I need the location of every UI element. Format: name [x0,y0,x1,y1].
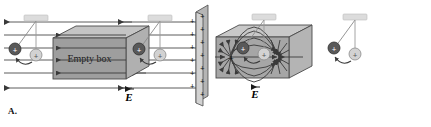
deflection-arc-arrow [335,57,351,63]
plate-charges-front: + + + + + + [190,17,195,91]
dipole-source-symbol: + [228,53,233,63]
svg-text:+: + [200,25,205,34]
svg-text:+: + [200,64,205,73]
e-field-label-group: E [250,87,260,100]
plate-charges-back: + + + + + + + [200,12,205,99]
svg-text:+: + [190,56,195,65]
svg-text:+: + [200,51,205,60]
pendulum-support-bar [148,15,172,21]
test-charge-deflected-symbol: + [13,46,18,55]
svg-text:+: + [190,82,195,91]
svg-text:+: + [200,90,205,99]
svg-text:+: + [200,77,205,86]
pendulum-support-bar [343,14,367,20]
svg-text:+: + [190,30,195,39]
svg-text:+: + [190,43,195,52]
test-charge-rest-symbol: + [158,52,163,61]
e-field-label-group: E [124,89,134,103]
test-charge-deflected-symbol: + [332,45,337,54]
panel-a-diagram: + + + + + + + + + + + + + [0,0,216,127]
pendulum-support-bar [24,15,48,21]
svg-text:+: + [200,12,205,21]
panel-b-diagram: + [215,0,431,127]
pendulum-right: + + [328,14,367,63]
deflection-arc-arrow [16,58,32,64]
panel-a: + + + + + + + + + + + + + [0,0,216,127]
svg-text:+: + [200,38,205,47]
e-field-label: E [124,91,132,103]
svg-text:+: + [190,69,195,78]
test-charge-rest-symbol: + [34,52,39,61]
physics-figure: + + + + + + + + + + + + + [0,0,431,127]
test-charge-rest-symbol: + [353,51,358,60]
pendulum-string-deflected [17,21,36,47]
charged-plate: + + + + + + + + + + + + + [190,5,208,106]
panel-b: + [215,0,431,127]
e-field-label: E [250,88,258,100]
pendulum-string-deflected [336,20,355,46]
svg-text:+: + [190,17,195,26]
test-charge-deflected-symbol: + [137,46,142,55]
empty-box-label: Empty box [67,53,111,64]
panel-label-a: A. [8,106,17,116]
